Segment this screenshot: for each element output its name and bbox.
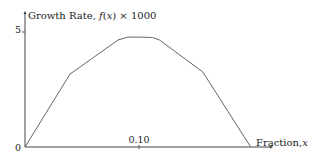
y-axis-arrow-icon (24, 11, 27, 14)
x-tick-label: 0.10 (128, 134, 149, 145)
growth-rate-chart: Growth Rate, f(x) × 1000 Fraction,x 0 50… (0, 0, 317, 158)
x-axis-label: Fraction,x (256, 137, 308, 148)
y-axis-label-suffix: × 1000 (116, 10, 156, 21)
y-tick-label: 5 (15, 24, 21, 35)
x-axis-label-prefix: Fraction, (256, 137, 302, 148)
x-axis-label-var: x (302, 137, 308, 148)
y-axis-label: Growth Rate, f(x) × 1000 (28, 10, 156, 21)
origin-label: 0 (15, 142, 21, 153)
y-axis-label-prefix: Growth Rate, (28, 10, 99, 21)
series-line-growth-rate (25, 37, 251, 147)
